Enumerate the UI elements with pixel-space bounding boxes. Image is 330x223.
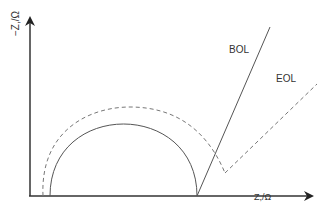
eol-diffusion-line [225, 84, 317, 173]
bol-semicircle [50, 124, 197, 196]
eol-label: EOL [276, 73, 296, 84]
impedance-diagram [0, 0, 330, 223]
eol-arc [43, 107, 225, 196]
x-axis-label: Z,/Ω [254, 192, 271, 202]
y-axis-label: −Z,/Ω [10, 11, 21, 36]
bol-label: BOL [229, 44, 249, 55]
